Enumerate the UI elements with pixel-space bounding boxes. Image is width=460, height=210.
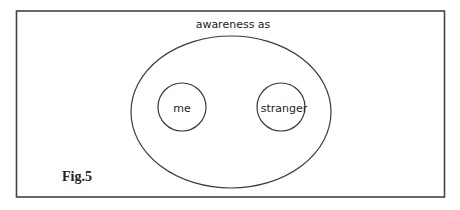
awareness-title: awareness as — [196, 18, 271, 31]
diagram-canvas: awareness as me stranger Fig.5 — [0, 0, 460, 210]
figure-caption: Fig.5 — [62, 169, 92, 184]
stranger-label: stranger — [261, 102, 308, 115]
me-label: me — [173, 102, 191, 115]
